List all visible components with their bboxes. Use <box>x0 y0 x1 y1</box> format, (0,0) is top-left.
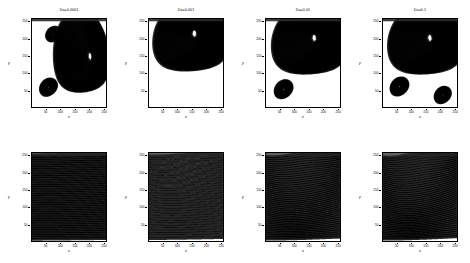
x-axis-label: x <box>382 115 458 120</box>
y-axis-label: y <box>8 195 10 200</box>
y-tick-mark <box>379 73 381 74</box>
y-tick-label: 150 <box>139 54 144 58</box>
y-tick-mark <box>28 190 30 191</box>
y-tick-label: 200 <box>256 37 261 41</box>
y-tick-mark <box>28 225 30 226</box>
y-tick-label: 50 <box>24 223 27 227</box>
y-tick-label: 200 <box>373 37 378 41</box>
plot-area <box>382 152 458 242</box>
y-tick-mark <box>379 39 381 40</box>
y-tick-label: 200 <box>373 171 378 175</box>
y-tick-label: 100 <box>256 71 261 75</box>
y-tick-mark <box>262 21 264 22</box>
y-tick-label: 250 <box>139 153 144 157</box>
plot-area <box>31 152 107 242</box>
y-tick-mark <box>262 225 264 226</box>
y-tick-label: 50 <box>141 223 144 227</box>
y-tick-mark <box>145 190 147 191</box>
panel-isotherms-da-0.01: 50100150200250x50100150200250y <box>241 142 347 256</box>
y-tick-mark <box>379 155 381 156</box>
y-tick-label: 100 <box>139 71 144 75</box>
y-tick-label: 50 <box>375 223 378 227</box>
y-tick-mark <box>379 207 381 208</box>
y-axis-ticks: 50100150200250 <box>241 18 264 108</box>
y-tick-mark <box>28 56 30 57</box>
panel-streamlines-da-0.0001: Da=0.000150100150200250x50100150200250y <box>7 8 113 122</box>
y-tick-mark <box>28 21 30 22</box>
y-axis-label: y <box>125 195 127 200</box>
y-tick-label: 250 <box>373 19 378 23</box>
panel-streamlines-da-0.001: Da=0.00150100150200250x50100150200250y <box>124 8 230 122</box>
panel-title: Da=0.0001 <box>31 8 107 13</box>
y-tick-mark <box>379 56 381 57</box>
y-tick-mark <box>145 39 147 40</box>
y-axis-label: y <box>242 61 244 66</box>
panel-isotherms-da-0.001: 50100150200250x50100150200250y <box>124 142 230 256</box>
y-axis-ticks: 50100150200250 <box>7 18 30 108</box>
y-tick-mark <box>145 225 147 226</box>
y-tick-mark <box>28 173 30 174</box>
y-axis-ticks: 50100150200250 <box>124 18 147 108</box>
y-tick-label: 50 <box>258 89 261 93</box>
panel-title: Da=0.01 <box>265 8 341 13</box>
y-tick-mark <box>262 91 264 92</box>
plot-area <box>148 18 224 108</box>
y-tick-label: 200 <box>256 171 261 175</box>
y-tick-mark <box>379 91 381 92</box>
y-tick-label: 50 <box>24 89 27 93</box>
y-tick-label: 250 <box>256 19 261 23</box>
y-tick-mark <box>28 91 30 92</box>
y-tick-label: 200 <box>22 37 27 41</box>
panel-streamlines-da-0.01: Da=0.0150100150200250x50100150200250y <box>241 8 347 122</box>
y-tick-mark <box>28 207 30 208</box>
panel-title: Da=0.001 <box>148 8 224 13</box>
y-tick-label: 250 <box>139 19 144 23</box>
panel-isotherms-da-0.1: 50100150200250x50100150200250y <box>358 142 464 256</box>
y-tick-mark <box>262 56 264 57</box>
y-tick-mark <box>28 39 30 40</box>
y-axis-ticks: 50100150200250 <box>358 18 381 108</box>
y-axis-ticks: 50100150200250 <box>124 152 147 242</box>
y-tick-mark <box>262 207 264 208</box>
y-tick-mark <box>379 225 381 226</box>
x-axis-label: x <box>265 249 341 254</box>
x-axis-label: x <box>31 249 107 254</box>
plot-area <box>382 18 458 108</box>
x-axis-label: x <box>382 249 458 254</box>
y-tick-mark <box>145 21 147 22</box>
y-tick-label: 200 <box>22 171 27 175</box>
y-tick-mark <box>145 73 147 74</box>
y-tick-mark <box>379 21 381 22</box>
plot-area <box>31 18 107 108</box>
y-tick-mark <box>145 173 147 174</box>
y-tick-label: 150 <box>373 188 378 192</box>
x-axis-label: x <box>148 115 224 120</box>
y-tick-label: 100 <box>22 71 27 75</box>
x-axis-label: x <box>31 115 107 120</box>
y-tick-mark <box>262 73 264 74</box>
y-tick-mark <box>262 173 264 174</box>
y-tick-mark <box>145 207 147 208</box>
y-tick-label: 100 <box>22 205 27 209</box>
y-tick-mark <box>262 155 264 156</box>
y-tick-label: 150 <box>139 188 144 192</box>
y-axis-ticks: 50100150200250 <box>358 152 381 242</box>
y-tick-mark <box>145 155 147 156</box>
y-tick-label: 250 <box>256 153 261 157</box>
figure-canvas: Da=0.000150100150200250x50100150200250yD… <box>0 0 470 263</box>
y-tick-label: 150 <box>256 54 261 58</box>
y-tick-label: 50 <box>258 223 261 227</box>
y-tick-label: 50 <box>141 89 144 93</box>
y-tick-label: 50 <box>375 89 378 93</box>
y-tick-label: 250 <box>22 153 27 157</box>
y-tick-label: 200 <box>139 171 144 175</box>
y-tick-mark <box>28 155 30 156</box>
y-tick-label: 250 <box>373 153 378 157</box>
plot-area <box>265 152 341 242</box>
y-tick-label: 100 <box>373 205 378 209</box>
y-tick-label: 150 <box>256 188 261 192</box>
y-tick-label: 150 <box>373 54 378 58</box>
y-tick-label: 100 <box>256 205 261 209</box>
y-tick-label: 100 <box>373 71 378 75</box>
y-tick-label: 100 <box>139 205 144 209</box>
